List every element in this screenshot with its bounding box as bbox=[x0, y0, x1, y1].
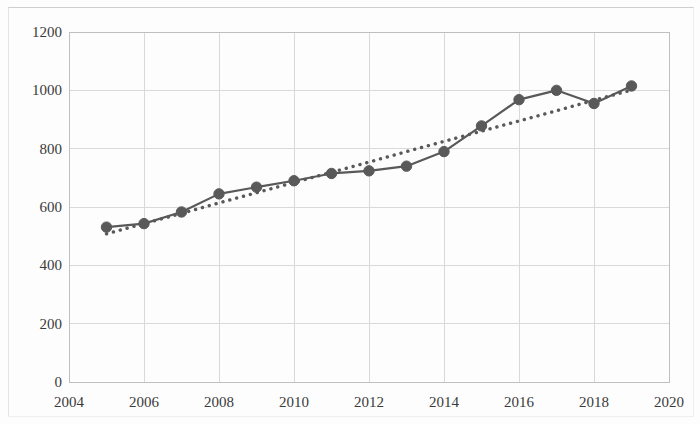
chart-container: 020040060080010001200 200420062008201020… bbox=[0, 0, 700, 424]
x-axis-tick-2010: 2010 bbox=[279, 395, 309, 410]
x-axis-tick-2018: 2018 bbox=[579, 395, 609, 410]
y-axis-tick-1000: 1000 bbox=[14, 83, 62, 98]
x-axis-tick-2006: 2006 bbox=[129, 395, 159, 410]
y-axis-tick-200: 200 bbox=[14, 316, 62, 331]
x-axis-tick-2014: 2014 bbox=[429, 395, 459, 410]
line-chart-plot bbox=[0, 0, 700, 424]
x-axis-tick-2008: 2008 bbox=[204, 395, 234, 410]
x-axis-tick-2020: 2020 bbox=[654, 395, 684, 410]
x-axis-tick-2016: 2016 bbox=[504, 395, 534, 410]
y-axis-tick-1200: 1200 bbox=[14, 25, 62, 40]
y-axis-tick-600: 600 bbox=[14, 200, 62, 215]
y-axis-tick-800: 800 bbox=[14, 141, 62, 156]
y-axis-tick-0: 0 bbox=[14, 375, 62, 390]
x-axis-tick-2004: 2004 bbox=[54, 395, 84, 410]
x-axis-tick-2012: 2012 bbox=[354, 395, 384, 410]
y-axis-tick-400: 400 bbox=[14, 258, 62, 273]
